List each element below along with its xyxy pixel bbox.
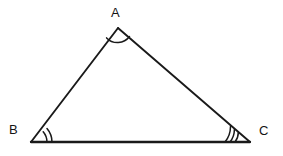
angle-arc-c-3 <box>225 126 231 142</box>
vertex-label-b: B <box>9 123 18 136</box>
angle-arc-b-1 <box>43 132 47 142</box>
angle-mark-b <box>43 129 52 143</box>
triangle-drawing <box>0 0 283 156</box>
vertex-label-c: C <box>259 124 269 137</box>
angle-arc-c-1 <box>235 133 238 142</box>
triangle-sides <box>31 28 250 142</box>
angle-mark-c <box>225 126 238 142</box>
side-ac <box>118 28 250 142</box>
side-ab <box>31 28 118 142</box>
angle-arc-b-2 <box>47 129 52 143</box>
vertex-label-a: A <box>111 6 120 19</box>
triangle-diagram: A B C <box>0 0 283 156</box>
